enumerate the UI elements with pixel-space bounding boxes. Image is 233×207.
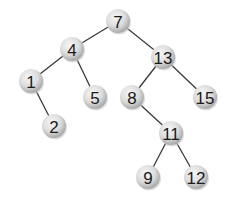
tree-node-7: 7	[106, 9, 131, 35]
tree-node-4: 4	[60, 37, 85, 63]
tree-node-13: 13	[151, 45, 176, 71]
tree-node-11: 11	[159, 121, 184, 147]
tree-node-5: 5	[83, 85, 108, 111]
node-label: 8	[127, 89, 136, 108]
node-label: 12	[187, 169, 206, 188]
node-label: 15	[196, 89, 215, 108]
node-label: 1	[26, 73, 35, 92]
tree-node-12: 12	[184, 165, 209, 191]
node-label: 11	[162, 125, 180, 144]
node-label: 4	[67, 41, 76, 60]
node-label: 7	[113, 13, 122, 32]
node-label: 9	[143, 169, 152, 188]
node-label: 5	[90, 89, 99, 108]
tree-node-9: 9	[136, 165, 161, 191]
edges	[31, 21, 205, 177]
tree-node-2: 2	[42, 114, 67, 140]
tree-node-1: 1	[19, 69, 44, 95]
tree-node-15: 15	[193, 85, 218, 111]
tree-node-8: 8	[120, 85, 145, 111]
binary-tree-diagram: 741315815211912	[0, 0, 233, 207]
node-label: 13	[154, 49, 173, 68]
node-label: 2	[49, 118, 58, 137]
